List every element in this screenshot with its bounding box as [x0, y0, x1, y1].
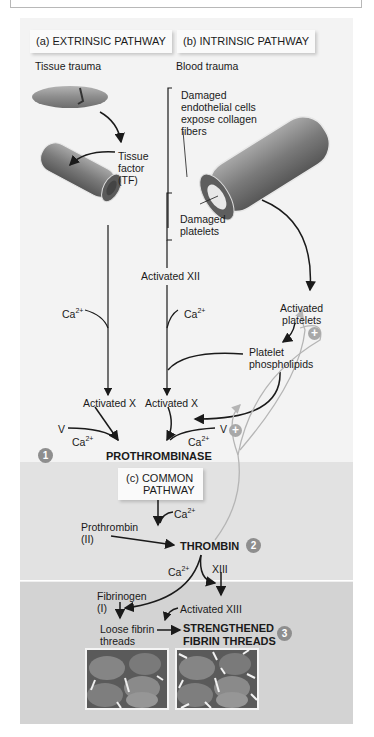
factor-v-left-label: V	[58, 423, 65, 435]
activated-xiii-label: Activated XIII	[180, 603, 242, 615]
prothrombinase-calcium-left: Ca2+	[72, 433, 93, 448]
tissue-factor-label: Tissuefactor(TF)	[118, 150, 149, 186]
factor-xiii-label: XIII	[212, 563, 228, 575]
torn-tissue-illustration	[32, 86, 108, 108]
prothrombinase-calcium-right: Ca2+	[188, 433, 209, 448]
strengthened-fibrin-label: STRENGTHENED FIBRIN THREADS	[183, 622, 276, 648]
thrombin-label: THROMBIN	[180, 540, 239, 552]
extrinsic-activated-x-label: Activated X	[83, 397, 136, 409]
tissue-trauma-label: Tissue trauma	[35, 60, 101, 72]
step-2-badge: 2	[246, 538, 261, 553]
factor-v-positive-feedback-icon: +	[229, 424, 242, 437]
step-1-badge: 1	[38, 448, 53, 463]
factor-v-right-label: V	[220, 423, 227, 435]
positive-feedback-icon: +	[308, 327, 321, 340]
common-pathway-header: (c) COMMON PATHWAY	[118, 468, 203, 500]
prothrombin-label: Prothrombin (II)	[81, 521, 138, 545]
fibrinogen-label: Fibrinogen (I)	[97, 590, 147, 614]
blood-trauma-label: Blood trauma	[176, 60, 238, 72]
activated-platelets-label: Activated platelets	[280, 302, 323, 326]
intrinsic-activated-x-label: Activated X	[145, 397, 198, 409]
strengthened-fibrin-image	[175, 648, 259, 710]
extrinsic-calcium-label: Ca2+	[62, 305, 83, 320]
thrombin-calcium-label: Ca2+	[168, 563, 189, 578]
damaged-endothelial-label: Damaged endothelial cells expose collage…	[181, 89, 257, 137]
prothrombinase-label: PROTHROMBINASE	[106, 450, 212, 462]
loose-fibrin-label: Loose fibrin threads	[100, 623, 154, 647]
intrinsic-pathway-header: (b) INTRINSIC PATHWAY	[177, 30, 315, 53]
step-3-badge: 3	[277, 626, 292, 641]
intrinsic-calcium-label: Ca2+	[184, 305, 205, 320]
activated-xii-label: Activated XII	[141, 270, 200, 282]
extrinsic-vessel-illustration	[36, 138, 126, 205]
platelet-phospholipids-label: Platelet phospholipids	[249, 346, 313, 370]
damaged-platelets-label: Damaged platelets	[180, 213, 226, 237]
common-calcium-label: Ca2+	[174, 505, 195, 520]
extrinsic-pathway-header: (a) EXTRINSIC PATHWAY	[30, 30, 172, 53]
loose-fibrin-image	[85, 648, 169, 710]
